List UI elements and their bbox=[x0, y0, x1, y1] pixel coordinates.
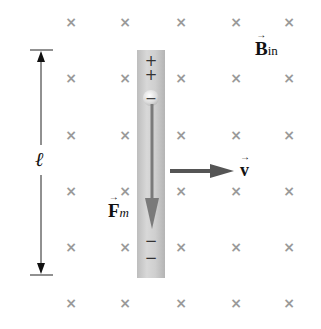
magnetic-field-label: →Bin bbox=[255, 38, 278, 60]
magnetic-force-label: →Fm bbox=[108, 200, 129, 222]
magnetic-force-arrow bbox=[145, 104, 159, 229]
velocity-label: →v bbox=[240, 160, 249, 181]
velocity-arrow bbox=[170, 164, 234, 178]
